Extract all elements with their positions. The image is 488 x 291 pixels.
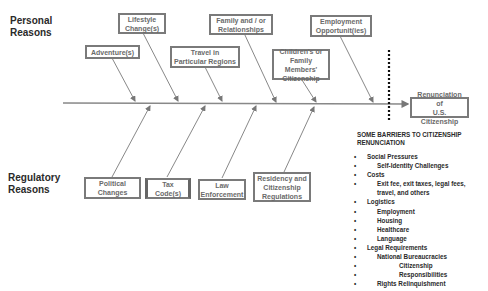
box-text: Family and / or [216, 16, 265, 25]
list-item: Costs [357, 170, 487, 179]
item-text: Exit fee, exit taxes, legal fees, [377, 179, 487, 188]
cause-box-political: Political Changes [84, 177, 141, 199]
bone-tax [167, 106, 205, 177]
cause-box-children: Children's or Family Members' Citizenshi… [272, 49, 330, 80]
cause-box-law: Law Enforcement [198, 179, 246, 200]
list-item: Self-Identity Challenges [357, 161, 487, 170]
item-text: Citizenship [399, 261, 487, 270]
box-text: U.S. Citizenship [414, 108, 465, 126]
cause-box-tax: Tax Code(s) [145, 178, 191, 199]
item-text: Employment [377, 207, 487, 216]
box-text: Family Members' [276, 56, 326, 74]
box-text: Citizenship [263, 183, 300, 192]
box-text: Particular Regions [174, 57, 236, 66]
bone-adventure [112, 58, 135, 101]
box-text: Adventure(s) [91, 48, 134, 57]
item-text: Social Pressures [367, 152, 487, 161]
list-item: Social Pressures [357, 152, 487, 161]
box-text: Opportunit(ies) [316, 26, 367, 35]
list-item: Citizenship [357, 261, 487, 270]
box-text: Code(s) [155, 189, 181, 198]
item-text: Language [377, 234, 487, 243]
box-text: Renunciation of [414, 90, 465, 108]
list-item: Exit fee, exit taxes, legal fees, [357, 179, 487, 188]
list-item: Healthcare [357, 225, 487, 234]
box-text: Changes [98, 188, 128, 197]
list-item: Legal Requirements [357, 243, 487, 252]
list-item: Responsibilities [357, 270, 487, 279]
box-text: Tax [162, 180, 174, 189]
list-item: National Bureaucracies [357, 252, 487, 261]
item-text: Logistics [367, 197, 487, 206]
box-text: Employment [320, 17, 362, 26]
label-line: Regulatory [8, 172, 60, 184]
barriers-list: Social Pressures Self-Identity Challenge… [357, 152, 487, 288]
bone-residency [284, 107, 314, 172]
cause-box-adventure: Adventure(s) [85, 45, 140, 59]
category-label-personal: Personal Reasons [10, 15, 52, 39]
item-text: Healthcare [377, 225, 487, 234]
list-item: Logistics [357, 197, 487, 206]
box-text: Political [99, 179, 126, 188]
item-text: National Bureaucracies [377, 252, 487, 261]
list-item-continuation: travel, and others [357, 188, 487, 197]
cause-box-travel: Travel in Particular Regions [170, 46, 240, 68]
list-item: Rights Relinquishment [357, 279, 487, 288]
box-text: Change(s) [125, 24, 159, 33]
item-text: Housing [377, 216, 487, 225]
bone-travel [205, 67, 222, 101]
list-item: Housing [357, 216, 487, 225]
label-line: Reasons [8, 184, 60, 196]
label-line: Reasons [10, 27, 52, 39]
cause-box-employment: Employment Opportunit(ies) [310, 15, 372, 37]
item-text: Legal Requirements [367, 243, 487, 252]
label-line: Personal [10, 15, 52, 27]
bone-children [302, 80, 316, 102]
list-item: Language [357, 234, 487, 243]
category-label-regulatory: Regulatory Reasons [8, 172, 60, 196]
item-text: Self-Identity Challenges [377, 161, 487, 170]
barriers-title: SOME BARRIERS TO CITIZENSHIP RENUNCIATIO… [357, 131, 487, 147]
box-text: Regulations [262, 192, 302, 201]
spine-arrow [63, 103, 408, 104]
box-text: Enforcement [201, 190, 244, 199]
bone-law [222, 106, 256, 178]
item-text: Responsibilities [399, 270, 487, 279]
barriers-panel: SOME BARRIERS TO CITIZENSHIP RENUNCIATIO… [357, 131, 487, 288]
box-text: Law [215, 181, 229, 190]
bone-political [112, 106, 150, 177]
item-text: Rights Relinquishment [377, 279, 487, 288]
item-text: Costs [367, 170, 487, 179]
box-text: Lifestyle [128, 15, 156, 24]
cause-box-residency: Residency and Citizenship Regulations [253, 172, 311, 202]
title-line: RENUNCIATION [357, 139, 487, 147]
list-item: Employment [357, 207, 487, 216]
cause-box-family: Family and / or Relationships [209, 14, 273, 35]
box-text: Children's or [280, 47, 323, 56]
bone-employment [340, 36, 373, 102]
effect-box: Renunciation of U.S. Citizenship [410, 97, 469, 118]
item-text: travel, and others [377, 188, 487, 197]
title-line: SOME BARRIERS TO CITIZENSHIP [357, 131, 487, 139]
box-text: Residency and [257, 174, 306, 183]
box-text: Citizenship [282, 74, 319, 83]
box-text: Relationships [218, 25, 264, 34]
box-text: Travel in [191, 48, 219, 57]
cause-box-lifestyle: Lifestyle Change(s) [118, 13, 166, 34]
